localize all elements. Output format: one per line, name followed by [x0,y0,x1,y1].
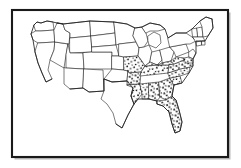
state-CO [83,52,112,69]
state-NM [83,69,104,92]
state-OR [31,30,55,43]
state-CT [196,41,202,46]
state-AL [149,82,160,101]
state-IA [119,42,139,57]
state-KS [112,56,124,70]
state-RI [202,41,205,45]
state-WY [70,36,92,53]
state-AZ [64,68,84,89]
us-map-svg [0,0,241,168]
us-map-figure: United States Southeastern United States… [0,0,241,168]
